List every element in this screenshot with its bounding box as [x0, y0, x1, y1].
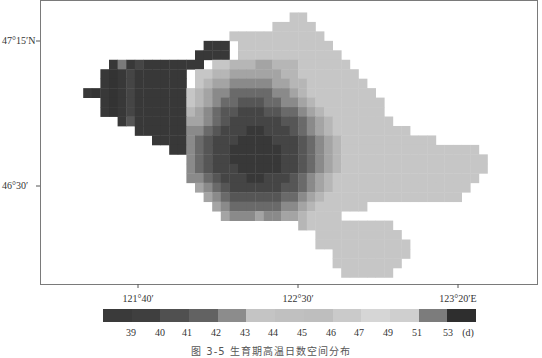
heatmap-cell — [315, 240, 324, 250]
heatmap-cell — [350, 268, 359, 278]
heatmap-cell — [229, 173, 238, 183]
heatmap-cell — [212, 41, 221, 51]
heatmap-cell — [470, 164, 479, 174]
heatmap-cell — [324, 107, 333, 117]
heatmap-cell — [393, 145, 402, 155]
heatmap-cell — [221, 164, 230, 174]
heatmap-cell — [358, 145, 367, 155]
heatmap-cell — [290, 173, 299, 183]
heatmap-cell — [204, 41, 213, 51]
heatmap-cell — [281, 88, 290, 98]
heatmap-cell — [152, 135, 161, 145]
heatmap-cell — [324, 69, 333, 79]
heatmap-cell — [221, 79, 230, 89]
heatmap-cell — [453, 192, 462, 202]
heatmap-cell — [255, 135, 264, 145]
heatmap-cell — [315, 173, 324, 183]
heatmap-cell — [367, 268, 376, 278]
heatmap-cell — [350, 154, 359, 164]
heatmap-cell — [221, 202, 230, 212]
heatmap-cell — [221, 154, 230, 164]
heatmap-cell — [350, 164, 359, 174]
heatmap-cell — [324, 211, 333, 221]
heatmap-cell — [204, 126, 213, 136]
heatmap-cell — [229, 126, 238, 136]
legend-swatch — [419, 309, 448, 322]
heatmap-cell — [109, 88, 118, 98]
heatmap-cell — [324, 173, 333, 183]
heatmap-cell — [427, 183, 436, 193]
heatmap-cell — [204, 117, 213, 127]
heatmap-cell — [238, 107, 247, 117]
heatmap-cell — [384, 258, 393, 268]
heatmap-cell — [350, 135, 359, 145]
heatmap-cell — [100, 88, 109, 98]
heatmap-cell — [315, 230, 324, 240]
heatmap-cell — [281, 192, 290, 202]
heatmap-cell — [281, 41, 290, 51]
heatmap-cell — [195, 98, 204, 108]
heatmap-cell — [178, 88, 187, 98]
heatmap-cell — [264, 183, 273, 193]
heatmap-cell — [272, 117, 281, 127]
heatmap-cell — [333, 69, 342, 79]
heatmap-cell — [255, 202, 264, 212]
heatmap-cell — [307, 202, 316, 212]
heatmap-cell — [281, 202, 290, 212]
heatmap-cell — [143, 107, 152, 117]
heatmap-cell — [229, 135, 238, 145]
heatmap-cell — [376, 164, 385, 174]
heatmap-cell — [212, 192, 221, 202]
heatmap-cell — [238, 192, 247, 202]
heatmap-cell — [298, 88, 307, 98]
heatmap-cell — [143, 117, 152, 127]
heatmap-cell — [307, 41, 316, 51]
heatmap-cell — [212, 145, 221, 155]
heatmap-cell — [367, 88, 376, 98]
heatmap-cell — [290, 192, 299, 202]
heatmap-cell — [298, 98, 307, 108]
heatmap-cell — [221, 126, 230, 136]
heatmap-cell — [204, 173, 213, 183]
heatmap-cell — [419, 135, 428, 145]
heatmap-cell — [341, 98, 350, 108]
heatmap-cell — [333, 192, 342, 202]
heatmap-cell — [247, 154, 256, 164]
heatmap-cell — [358, 258, 367, 268]
heatmap-cell — [462, 164, 471, 174]
heatmap-cell — [367, 230, 376, 240]
heatmap-cell — [324, 145, 333, 155]
heatmap-cells — [83, 12, 488, 277]
heatmap-cell — [135, 117, 144, 127]
heatmap-cell — [290, 31, 299, 41]
heatmap-cell — [229, 60, 238, 70]
heatmap-cell — [247, 79, 256, 89]
heatmap-cell — [376, 117, 385, 127]
heatmap-cell — [109, 60, 118, 70]
legend-label: 41 — [182, 327, 192, 338]
heatmap-cell — [315, 135, 324, 145]
heatmap-cell — [272, 183, 281, 193]
heatmap-cell — [333, 154, 342, 164]
heatmap-cell — [255, 107, 264, 117]
heatmap-cell — [118, 69, 127, 79]
heatmap-cell — [229, 202, 238, 212]
heatmap-cell — [255, 69, 264, 79]
heatmap-cell — [118, 60, 127, 70]
heatmap-cell — [307, 221, 316, 231]
heatmap-cell — [229, 164, 238, 174]
heatmap-cell — [238, 202, 247, 212]
heatmap-cell — [290, 145, 299, 155]
heatmap-cell — [195, 145, 204, 155]
heatmap-cell — [135, 107, 144, 117]
heatmap-cell — [229, 69, 238, 79]
heatmap-cell — [281, 98, 290, 108]
heatmap-cell — [264, 126, 273, 136]
heatmap-cell — [324, 135, 333, 145]
heatmap-cell — [384, 164, 393, 174]
heatmap-cell — [195, 183, 204, 193]
heatmap-cell — [255, 211, 264, 221]
heatmap-cell — [221, 145, 230, 155]
heatmap-cell — [169, 107, 178, 117]
heatmap-cell — [178, 145, 187, 155]
